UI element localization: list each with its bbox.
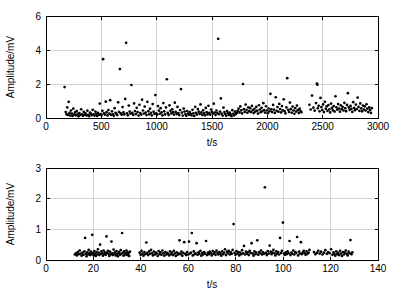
x-tick-label: 3000 <box>367 121 390 132</box>
data-point <box>279 237 282 240</box>
data-point <box>68 112 71 115</box>
data-point <box>230 253 233 256</box>
x-axis-title: t/s <box>207 137 218 148</box>
data-point <box>162 102 165 105</box>
data-point <box>333 110 336 113</box>
data-point <box>239 105 242 108</box>
y-tick-label: 2 <box>35 79 41 90</box>
data-point <box>161 249 164 252</box>
data-point <box>286 77 289 80</box>
data-point <box>215 249 218 252</box>
data-point <box>121 232 124 235</box>
data-point <box>327 104 330 107</box>
data-point <box>186 110 189 113</box>
y-axis-title: Amplitude/mV <box>5 36 16 99</box>
data-point <box>159 107 162 110</box>
data-point <box>194 105 197 108</box>
x-axis-title: t/s <box>207 279 218 290</box>
x-tick-label: 1500 <box>201 121 224 132</box>
data-point <box>219 110 222 113</box>
data-point <box>97 248 100 251</box>
data-point <box>127 104 130 107</box>
data-points <box>74 186 354 258</box>
data-point <box>161 114 164 117</box>
data-point <box>281 249 284 252</box>
data-point <box>320 250 323 253</box>
data-point <box>320 106 323 109</box>
data-point <box>72 107 75 110</box>
data-point <box>223 251 226 254</box>
data-point <box>88 115 91 118</box>
data-point <box>101 110 104 113</box>
data-point <box>339 110 342 113</box>
data-point <box>173 101 176 104</box>
data-point <box>78 249 81 252</box>
data-point <box>324 107 327 110</box>
data-point <box>247 254 250 257</box>
x-tick-label: 40 <box>135 263 147 274</box>
data-point <box>105 111 108 114</box>
data-point <box>230 115 233 118</box>
data-point <box>218 113 221 116</box>
data-point <box>237 107 240 110</box>
data-point <box>347 92 350 95</box>
data-point <box>268 244 271 247</box>
data-point <box>210 108 213 111</box>
data-point <box>250 105 253 108</box>
data-point <box>338 107 341 110</box>
data-point <box>209 113 212 116</box>
data-point <box>199 249 202 252</box>
data-point <box>182 107 185 110</box>
data-point <box>178 239 181 242</box>
data-point <box>308 249 311 252</box>
data-point <box>363 105 366 108</box>
data-point <box>164 113 167 116</box>
data-points <box>63 37 373 117</box>
data-point <box>342 109 345 112</box>
data-point <box>296 104 299 107</box>
data-point <box>316 83 319 86</box>
data-point <box>328 252 331 255</box>
data-point <box>288 240 291 243</box>
data-point <box>272 104 275 107</box>
gridlines <box>46 168 378 260</box>
data-point <box>195 242 198 245</box>
data-point <box>255 251 258 254</box>
data-point <box>117 101 120 104</box>
data-point <box>190 251 193 254</box>
data-point <box>145 114 148 117</box>
x-tick-label: 80 <box>230 263 242 274</box>
data-point <box>282 98 285 101</box>
tick-marks <box>46 168 378 260</box>
y-tick-label: 0 <box>35 113 41 124</box>
data-point <box>266 109 269 112</box>
x-tick-label: 60 <box>183 263 195 274</box>
data-point <box>116 114 119 117</box>
data-point <box>167 114 170 117</box>
x-tick-label: 500 <box>93 121 110 132</box>
data-point <box>355 108 358 111</box>
data-point <box>328 108 331 111</box>
data-point <box>222 106 225 109</box>
data-point <box>80 108 83 111</box>
plot-frame <box>46 168 378 260</box>
data-point <box>136 111 139 114</box>
x-tick-label: 0 <box>43 263 49 274</box>
data-point <box>346 254 349 257</box>
data-point <box>132 114 135 117</box>
data-point <box>244 103 247 106</box>
data-point <box>129 250 132 253</box>
data-point <box>232 223 235 226</box>
data-point <box>269 93 272 96</box>
x-tick-label: 1000 <box>146 121 169 132</box>
data-point <box>179 109 182 112</box>
data-point <box>270 108 273 111</box>
data-point <box>367 111 370 114</box>
data-point <box>319 97 322 100</box>
data-point <box>243 111 246 114</box>
data-point <box>188 240 191 243</box>
data-point <box>87 249 90 252</box>
data-point <box>263 109 266 112</box>
x-tick-label: 2000 <box>256 121 279 132</box>
data-point <box>345 110 348 113</box>
